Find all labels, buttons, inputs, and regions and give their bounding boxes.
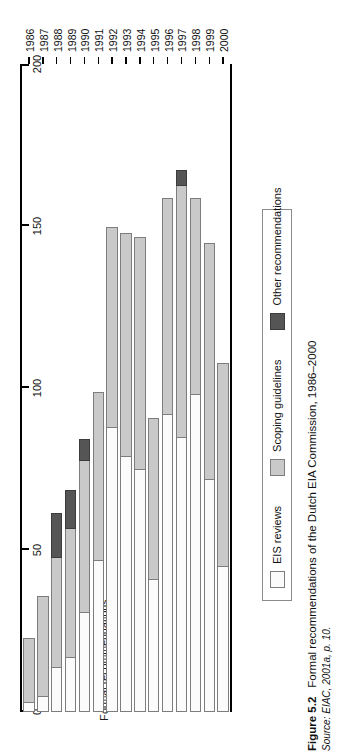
bar-segment-eis bbox=[190, 394, 201, 712]
bar-segment-eis bbox=[162, 414, 173, 712]
figure-caption: Figure 5.2Formal recommendations of the … bbox=[306, 11, 332, 751]
bar-segment-eis bbox=[79, 612, 90, 712]
category-axis-line bbox=[230, 64, 232, 712]
category-label-1989: 1989 bbox=[66, 29, 78, 52]
category-tick bbox=[153, 57, 154, 64]
category-tick bbox=[181, 57, 182, 64]
category-tick bbox=[111, 57, 112, 64]
category-tick bbox=[70, 57, 71, 64]
chart-legend: EIS reviewsScoping guidelinesOther recom… bbox=[262, 209, 292, 601]
bar-segment-scoping bbox=[190, 198, 201, 396]
source-prefix: Source: bbox=[321, 717, 332, 751]
category-tick bbox=[84, 57, 85, 64]
bar-segment-eis bbox=[148, 579, 159, 712]
bar-segment-scoping bbox=[217, 363, 228, 567]
bar-group bbox=[204, 244, 215, 712]
legend-swatch-icon-other bbox=[270, 313, 285, 330]
figure-rotator: Formal recommendations 050100150200 1986… bbox=[0, 0, 354, 751]
category-label-1991: 1991 bbox=[93, 29, 105, 52]
bar-segment-eis bbox=[93, 560, 104, 712]
category-tick bbox=[222, 57, 223, 64]
bar-segment-scoping bbox=[51, 557, 62, 667]
bar-series-container: 1986198719881989199019911992199319941995… bbox=[22, 64, 230, 712]
legend-item-other[interactable]: Other recommendations bbox=[270, 188, 285, 330]
bar-group bbox=[79, 440, 90, 712]
bar-group bbox=[162, 199, 173, 712]
bar-segment-other bbox=[51, 513, 62, 558]
figure-number: Figure 5.2 bbox=[306, 697, 318, 751]
bar-group bbox=[65, 491, 76, 712]
source-text: EIAC, 2001a, p. 10. bbox=[321, 626, 332, 713]
bar-segment-eis bbox=[176, 437, 187, 712]
category-label-1997: 1997 bbox=[176, 29, 188, 52]
bar-segment-scoping bbox=[65, 528, 76, 658]
bar-group bbox=[120, 235, 131, 713]
bar-segment-eis bbox=[204, 479, 215, 712]
category-tick bbox=[195, 57, 196, 64]
category-tick bbox=[125, 57, 126, 64]
legend-label: EIS reviews bbox=[271, 506, 283, 564]
category-label-1988: 1988 bbox=[52, 29, 64, 52]
category-tick bbox=[167, 57, 168, 64]
category-label-1999: 1999 bbox=[204, 29, 216, 52]
bar-group bbox=[176, 171, 187, 712]
bar-segment-scoping bbox=[23, 638, 34, 703]
bar-segment-scoping bbox=[79, 460, 90, 612]
bar-segment-eis bbox=[51, 667, 62, 712]
bar-segment-scoping bbox=[134, 237, 145, 470]
bar-segment-other bbox=[65, 490, 76, 529]
bar-segment-scoping bbox=[120, 234, 131, 458]
bar-group bbox=[23, 639, 34, 712]
category-label-1995: 1995 bbox=[149, 29, 161, 52]
bar-group bbox=[134, 238, 145, 712]
bar-segment-scoping bbox=[204, 243, 215, 480]
caption-source-line: Source: EIAC, 2001a, p. 10. bbox=[321, 11, 332, 751]
figure-5-2: Formal recommendations 050100150200 1986… bbox=[0, 0, 354, 751]
bar-group bbox=[106, 228, 117, 712]
legend-label: Other recommendations bbox=[271, 188, 283, 306]
bar-segment-eis bbox=[65, 657, 76, 712]
legend-label: Scoping guidelines bbox=[271, 360, 283, 452]
category-tick bbox=[56, 57, 57, 64]
figure-title: Formal recommendations of the Dutch EIA … bbox=[306, 341, 318, 688]
legend-swatch-icon-eis bbox=[270, 571, 285, 588]
category-tick bbox=[98, 57, 99, 64]
bar-segment-eis bbox=[134, 469, 145, 712]
bar-group bbox=[51, 514, 62, 712]
bar-segment-other bbox=[176, 170, 187, 186]
bar-segment-scoping bbox=[106, 227, 117, 428]
bar-segment-scoping bbox=[37, 596, 48, 696]
category-label-1990: 1990 bbox=[79, 29, 91, 52]
bar-segment-scoping bbox=[162, 198, 173, 415]
category-label-1998: 1998 bbox=[190, 29, 202, 52]
bar-group bbox=[37, 597, 48, 712]
category-tick bbox=[139, 57, 140, 64]
bar-segment-eis bbox=[37, 696, 48, 712]
chart-plot-area: Formal recommendations 050100150200 1986… bbox=[6, 51, 238, 751]
caption-title-line: Figure 5.2Formal recommendations of the … bbox=[306, 11, 318, 751]
bar-segment-scoping bbox=[176, 185, 187, 438]
category-tick bbox=[28, 57, 29, 64]
legend-swatch-icon-scoping bbox=[270, 459, 285, 476]
bar-segment-scoping bbox=[93, 392, 104, 560]
bar-segment-eis bbox=[120, 456, 131, 712]
legend-item-eis[interactable]: EIS reviews bbox=[270, 506, 285, 588]
legend-item-scoping[interactable]: Scoping guidelines bbox=[270, 360, 285, 476]
bar-segment-scoping bbox=[148, 418, 159, 580]
bar-group bbox=[148, 419, 159, 712]
bar-segment-eis bbox=[106, 427, 117, 712]
bar-group bbox=[190, 199, 201, 712]
category-label-1987: 1987 bbox=[38, 29, 50, 52]
category-tick bbox=[42, 57, 43, 64]
bar-group bbox=[93, 393, 104, 712]
category-tick bbox=[209, 57, 210, 64]
category-label-1986: 1986 bbox=[24, 29, 36, 52]
category-label-1993: 1993 bbox=[121, 29, 133, 52]
bar-segment-eis bbox=[23, 702, 34, 712]
category-label-1992: 1992 bbox=[107, 29, 119, 52]
category-label-1994: 1994 bbox=[135, 29, 147, 52]
bar-group bbox=[217, 364, 228, 712]
bar-segment-other bbox=[79, 439, 90, 462]
chart-axes: 050100150200 198619871988198919901991199… bbox=[20, 64, 232, 712]
bar-segment-eis bbox=[217, 566, 228, 712]
